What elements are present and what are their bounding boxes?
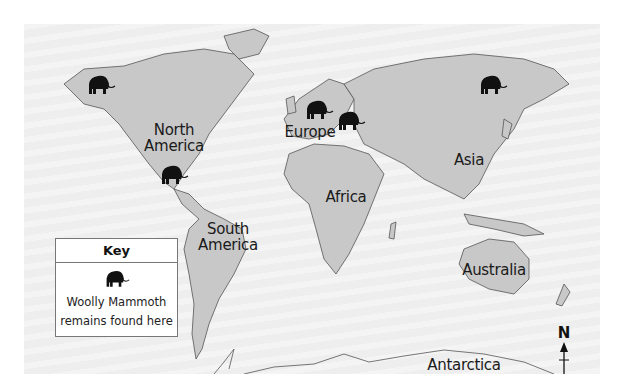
mammoth-marker-mexico — [159, 164, 189, 186]
map-key: Key Woolly Mammoth remains found here — [55, 238, 178, 337]
antarctic-peninsula — [214, 349, 234, 374]
key-description: Woolly Mammoth remains found here — [56, 293, 177, 331]
mammoth-icon — [104, 269, 130, 289]
uk-shape — [286, 96, 296, 114]
mammoth-marker-alaska — [86, 74, 116, 96]
north-arrow-icon — [554, 342, 574, 374]
label-australia: Australia — [454, 262, 534, 278]
madagascar-shape — [389, 222, 396, 239]
world-map: North America South America Europe Afric… — [24, 24, 600, 374]
mammoth-marker-siberia — [478, 74, 508, 96]
mammoth-marker-northern-europe — [304, 99, 334, 121]
key-title: Key — [56, 239, 177, 263]
africa-shape — [284, 144, 384, 274]
new-zealand-shape — [556, 284, 570, 306]
label-europe: Europe — [280, 124, 340, 140]
key-line-1: Woolly Mammoth — [56, 293, 177, 312]
label-south-america: South America — [188, 221, 268, 253]
label-africa: Africa — [316, 189, 376, 205]
key-line-2: remains found here — [56, 312, 177, 331]
north-label: N — [554, 324, 574, 342]
label-antarctica: Antarctica — [419, 357, 509, 373]
north-arrow: N — [554, 324, 574, 374]
indonesia-shape — [464, 214, 544, 236]
label-north-america: North America — [134, 122, 214, 154]
south-america-shape — [174, 189, 246, 359]
mammoth-marker-eastern-europe — [336, 110, 366, 132]
label-asia: Asia — [444, 152, 494, 168]
